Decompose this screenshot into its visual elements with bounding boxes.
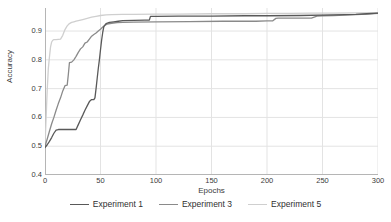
legend-item-2[interactable]: Experiment 3: [159, 199, 232, 209]
x-tick-label: 200: [247, 177, 287, 185]
plot-area: [45, 8, 378, 175]
legend-label: Experiment 3: [182, 199, 232, 209]
legend-line-icon: [248, 204, 267, 205]
x-tick-label: 100: [136, 177, 176, 185]
line-chart: 0.40.50.60.70.80.9 050100150200250300 Ep…: [0, 0, 391, 222]
plot-canvas: [45, 8, 378, 175]
x-tick-label: 250: [303, 177, 343, 185]
legend-label: Experiment 1: [93, 199, 143, 209]
legend-item-3[interactable]: Experiment 5: [248, 199, 321, 209]
legend-label: Experiment 5: [271, 199, 321, 209]
chart-legend: Experiment 1Experiment 3Experiment 5: [0, 199, 391, 209]
x-axis-label: Epochs: [45, 186, 378, 195]
legend-line-icon: [70, 204, 89, 205]
x-tick-label: 150: [192, 177, 232, 185]
x-tick-label: 50: [81, 177, 121, 185]
y-axis-label: Accuracy: [5, 32, 14, 102]
y-tick-label: 0.6: [2, 113, 42, 121]
x-tick-label: 0: [25, 177, 65, 185]
y-tick-label: 0.5: [2, 142, 42, 150]
legend-line-icon: [159, 204, 178, 205]
legend-item-1[interactable]: Experiment 1: [70, 199, 143, 209]
x-tick-label: 300: [358, 177, 391, 185]
